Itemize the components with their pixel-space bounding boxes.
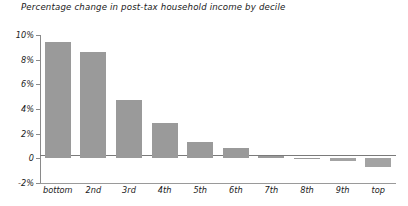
x-tick-label: top <box>371 185 384 195</box>
bar <box>223 148 249 158</box>
bar <box>152 123 178 159</box>
x-tick-label: bottom <box>43 185 73 195</box>
y-tick-mark <box>36 134 40 135</box>
bar <box>330 158 356 161</box>
x-tick-label: 7th <box>265 185 279 195</box>
y-tick-mark <box>36 35 40 36</box>
y-tick-mark <box>36 84 40 85</box>
y-axis-tick-labels: 10%8%6%4%2%0-2% <box>0 35 34 183</box>
y-tick-label: 6% <box>21 79 34 89</box>
y-tick-label: 0 <box>29 153 34 163</box>
plot-area <box>40 35 396 183</box>
y-tick-label: 10% <box>16 30 34 40</box>
x-tick-label: 3rd <box>122 185 136 195</box>
y-tick-mark <box>36 60 40 61</box>
x-axis-tick-labels: bottom2nd3rd4th5th6th7th8th9thtop <box>40 185 396 201</box>
x-tick-label: 2nd <box>86 185 102 195</box>
x-tick-label: 6th <box>229 185 243 195</box>
bar-series <box>40 35 396 183</box>
y-tick-label: 2% <box>21 129 34 139</box>
x-tick-label: 9th <box>336 185 350 195</box>
y-tick-mark <box>36 183 40 184</box>
y-tick-mark <box>36 158 40 159</box>
bar <box>80 52 106 158</box>
y-tick-label: 8% <box>21 55 34 65</box>
bar <box>187 142 213 158</box>
bar <box>258 156 284 158</box>
bar <box>365 158 391 167</box>
chart-title: Percentage change in post-tax household … <box>21 2 285 12</box>
y-tick-mark <box>36 109 40 110</box>
bar <box>116 100 142 158</box>
chart-page: Percentage change in post-tax household … <box>0 0 408 206</box>
bottom-axis-line <box>40 183 396 184</box>
bar <box>45 42 71 158</box>
bar <box>294 158 320 159</box>
y-tick-label: -2% <box>18 178 34 188</box>
y-tick-label: 4% <box>21 104 34 114</box>
x-tick-label: 4th <box>158 185 172 195</box>
x-tick-label: 5th <box>193 185 207 195</box>
x-tick-label: 8th <box>300 185 314 195</box>
